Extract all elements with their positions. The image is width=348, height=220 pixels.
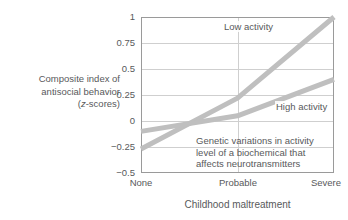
x-tick-label-none: None [121, 177, 161, 188]
annotation-line-3: affects neurotransmitters [196, 158, 342, 170]
y-axis-title-line-3: (z-scores) [2, 98, 120, 111]
y-axis-title-line-1: Composite index of [2, 73, 120, 86]
y-tick-label: 1 [101, 12, 135, 22]
chart-figure: 1 0.75 0.5 0.25 0 −0.25 −0.5 None Probab… [0, 0, 348, 220]
genetic-variation-note: Genetic variations in activity level of … [196, 135, 342, 170]
x-axis-title: Childhood maltreatment [141, 199, 334, 211]
x-tick-label-probable: Probable [208, 177, 268, 188]
y-tick-label: −0.25 [101, 142, 135, 152]
x-tick-label-severe: Severe [304, 177, 348, 188]
annotation-line-2: level of a biochemical that [196, 147, 342, 159]
y-axis-title: Composite index of antisocial behavior (… [2, 73, 120, 111]
y-tick-label: 0 [101, 116, 135, 126]
y-axis-title-line-2: antisocial behavior [2, 86, 120, 99]
series-label-low-activity: Low activity [223, 21, 274, 32]
y-axis-title-italic-token: z [81, 98, 86, 109]
annotation-line-1: Genetic variations in activity [196, 135, 342, 147]
y-tick-label: 0.75 [101, 38, 135, 48]
series-label-high-activity: High activity [275, 101, 328, 112]
